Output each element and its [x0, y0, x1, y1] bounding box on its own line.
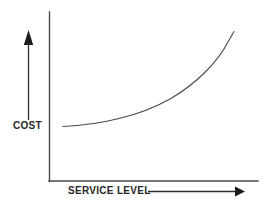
cost-curve	[63, 32, 234, 127]
arrow-up-icon	[24, 30, 33, 120]
x-axis-label: SERVICE LEVEL	[68, 186, 151, 196]
cost-vs-service-level-figure: COST SERVICE LEVEL	[0, 0, 271, 211]
chart-canvas	[0, 0, 271, 211]
arrow-right-icon	[148, 187, 245, 197]
y-axis-label: COST	[13, 121, 42, 131]
